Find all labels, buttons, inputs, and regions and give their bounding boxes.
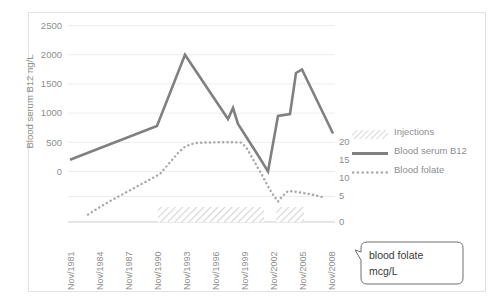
hatch-swatch-icon xyxy=(352,126,388,137)
legend-item-blood-serum-b12[interactable]: Blood serum B12 xyxy=(352,141,482,160)
chart-legend: Injections Blood serum B12 Blood folate xyxy=(352,122,482,179)
solid-line-icon xyxy=(352,145,388,156)
callout-text: blood folate mcg/L xyxy=(369,247,423,279)
x-tick-9: Nov/2008 xyxy=(327,238,337,290)
y2-tick-10: 10 xyxy=(339,172,350,183)
x-tick-2: Nov/1987 xyxy=(124,238,134,290)
injections-bands xyxy=(158,207,304,222)
y-tick-0: 0 xyxy=(32,166,62,177)
x-tick-5: Nov/1996 xyxy=(211,238,221,290)
y-tick-1500: 1500 xyxy=(32,78,62,89)
y2-tick-15: 15 xyxy=(339,154,350,165)
x-tick-3: Nov/1990 xyxy=(153,238,163,290)
y-tick-2000: 2000 xyxy=(32,49,62,60)
y-tick-500: 500 xyxy=(32,137,62,148)
legend-item-blood-folate[interactable]: Blood folate xyxy=(352,160,482,179)
x-tick-1: Nov/1984 xyxy=(95,238,105,290)
dotted-line-icon xyxy=(352,164,388,175)
legend-label-blood-serum-b12: Blood serum B12 xyxy=(394,145,467,156)
series-blood-folate xyxy=(88,142,324,214)
x-tick-8: Nov/2005 xyxy=(298,238,308,290)
x-tick-7: Nov/2002 xyxy=(269,238,279,290)
callout-line-2: mcg/L xyxy=(369,263,423,279)
y-tick-1000: 1000 xyxy=(32,107,62,118)
y-tick-2500: 2500 xyxy=(32,20,62,31)
y2-tick-20: 20 xyxy=(339,136,350,147)
callout-line-1: blood folate xyxy=(369,247,423,263)
blood-folate-callout: blood folate mcg/L xyxy=(355,238,465,288)
x-tick-0: Nov/1981 xyxy=(66,238,76,290)
legend-label-injections: Injections xyxy=(394,126,434,137)
y-axis-title: Blood serum B12 ng/L xyxy=(24,37,35,167)
x-tick-4: Nov/1993 xyxy=(182,238,192,290)
x-tick-6: Nov/1999 xyxy=(240,238,250,290)
legend-item-injections[interactable]: Injections xyxy=(352,122,482,141)
legend-label-blood-folate: Blood folate xyxy=(394,164,444,175)
y2-tick-0: 0 xyxy=(339,216,344,227)
y2-tick-5: 5 xyxy=(339,190,344,201)
